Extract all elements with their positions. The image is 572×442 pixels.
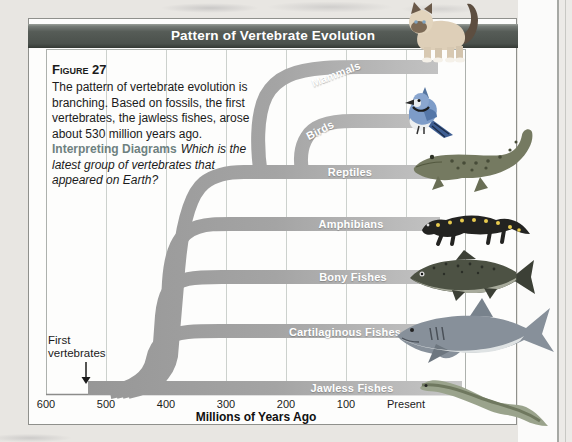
- axis-tick-600: 600: [24, 398, 68, 410]
- caption-question-line: appeared on Earth?: [52, 173, 249, 189]
- shark-image: [392, 296, 558, 366]
- trout-image: [404, 250, 540, 302]
- caption-line: The pattern of vertebrate evolution is: [52, 80, 249, 96]
- caption-line: vertebrates, the jawless fishes, arose: [52, 111, 249, 127]
- branch-label-reptiles: Reptiles: [328, 166, 372, 178]
- axis-title: Millions of Years Ago: [46, 410, 466, 424]
- first-vertebrates-annotation: First vertebrates: [48, 334, 106, 360]
- interpreting-diagrams-label: Interpreting Diagrams: [52, 142, 177, 156]
- caption-question-line: latest group of vertebrates that: [52, 158, 249, 174]
- caption-line: about 530 million years ago.: [52, 127, 249, 143]
- textbook-figure: Pattern of Vertebrate Evolution: [0, 0, 572, 442]
- axis-tick-400: 400: [144, 398, 188, 410]
- branch-label-jawless-fishes: Jawless Fishes: [311, 382, 394, 394]
- lamprey-image: [414, 376, 554, 428]
- cat-image: [404, 0, 480, 64]
- figure-caption: Figure 27 The pattern of vertebrate evol…: [52, 62, 249, 189]
- branch-label-cartilaginous-fishes: Cartilaginous Fishes: [289, 326, 401, 338]
- salamander-image: [418, 206, 534, 248]
- axis-tick-300: 300: [204, 398, 248, 410]
- caption-question-line: Interpreting DiagramsWhich is the: [52, 142, 249, 158]
- axis-tick-500: 500: [84, 398, 128, 410]
- axis-tick-100: 100: [324, 398, 368, 410]
- axis-tick-200: 200: [264, 398, 308, 410]
- first-vertebrates-arrow: [82, 362, 91, 384]
- branch-label-amphibians: Amphibians: [319, 218, 384, 230]
- caption-line: branching. Based on fossils, the first: [52, 96, 249, 112]
- branch-label-bony-fishes: Bony Fishes: [319, 271, 387, 283]
- crocodile-image: [412, 124, 540, 196]
- figure-number: Figure 27: [52, 62, 249, 77]
